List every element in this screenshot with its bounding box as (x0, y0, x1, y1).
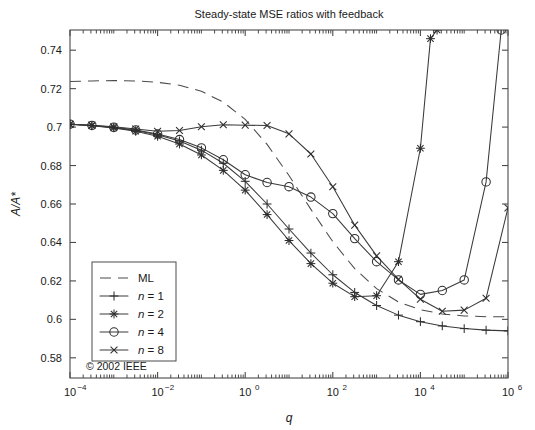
svg-text:0: 0 (255, 383, 260, 392)
svg-text:4: 4 (430, 383, 435, 392)
y-axis-label: A/A* (9, 192, 23, 217)
y-tick-label: 0.58 (41, 352, 62, 364)
y-tick-label: 0.7 (47, 121, 62, 133)
chart-title: Steady-state MSE ratios with feedback (195, 8, 384, 20)
data-point-marker (288, 239, 290, 241)
svg-text:−4: −4 (77, 383, 87, 392)
legend-label: n = 8 (138, 344, 164, 356)
data-point-marker (157, 135, 159, 137)
svg-text:6: 6 (518, 383, 523, 392)
x-axis-label: q (286, 411, 293, 425)
legend-label: n = 1 (138, 290, 164, 302)
data-point-marker (332, 282, 334, 284)
data-point-marker (244, 189, 246, 191)
legend: MLn = 1n = 2n = 4n = 8 (92, 262, 176, 361)
data-point-marker (222, 169, 224, 171)
data-point-marker (113, 313, 115, 315)
y-tick-label: 0.74 (41, 44, 62, 56)
svg-text:10: 10 (414, 386, 426, 398)
svg-text:10: 10 (64, 386, 76, 398)
data-point-marker (200, 154, 202, 156)
svg-text:10: 10 (239, 386, 251, 398)
data-point-marker (266, 213, 268, 215)
figure-container: Steady-state MSE ratios with feedback 0.… (0, 0, 535, 430)
legend-label: n = 2 (138, 308, 164, 320)
svg-text:2: 2 (343, 383, 348, 392)
y-tick-label: 0.62 (41, 275, 62, 287)
legend-label: n = 4 (138, 326, 165, 338)
y-tick-label: 0.64 (41, 236, 62, 248)
svg-text:10: 10 (151, 386, 163, 398)
data-point-marker (354, 296, 356, 298)
svg-text:10: 10 (502, 386, 514, 398)
y-tick-label: 0.72 (41, 83, 62, 95)
legend-label: ML (138, 272, 155, 284)
data-point-marker (419, 147, 421, 149)
svg-text:10: 10 (327, 386, 339, 398)
svg-text:−2: −2 (165, 383, 175, 392)
y-tick-label: 0.68 (41, 160, 62, 172)
chart-svg: Steady-state MSE ratios with feedback 0.… (0, 0, 535, 430)
data-point-marker (310, 263, 312, 265)
data-point-marker (135, 130, 137, 132)
y-tick-label: 0.6 (47, 313, 62, 325)
data-point-marker (397, 261, 399, 263)
copyright-annotation: © 2002 IEEE (86, 360, 147, 372)
data-point-marker (376, 295, 378, 297)
y-tick-label: 0.66 (41, 198, 62, 210)
data-point-marker (429, 38, 431, 40)
